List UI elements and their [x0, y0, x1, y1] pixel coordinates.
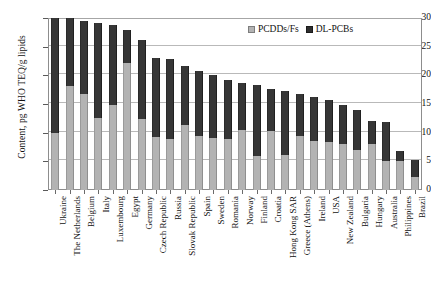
- x-tick-label: Norway: [246, 196, 255, 225]
- bar-segment-dl-pcbs: [253, 85, 261, 156]
- x-tick-label: Finland: [260, 196, 269, 224]
- x-tick-mark: [70, 190, 71, 194]
- bar-segment-dl-pcbs: [396, 151, 404, 161]
- bar-segment-pcdds-fs: [368, 144, 376, 190]
- x-tick-label: Ukraine: [59, 196, 68, 225]
- x-tick-label: USA: [332, 196, 341, 214]
- bars-layer: [48, 18, 422, 190]
- bar-segment-pcdds-fs: [339, 144, 347, 190]
- x-tick-mark: [314, 190, 315, 194]
- bar-segment-dl-pcbs: [138, 40, 146, 119]
- x-tick-label: Germany: [145, 196, 154, 230]
- bar-segment-pcdds-fs: [138, 119, 146, 190]
- y-tick-mark: [43, 190, 48, 191]
- bar-segment-dl-pcbs: [181, 66, 189, 125]
- x-tick-mark: [329, 190, 330, 194]
- bar-segment-pcdds-fs: [195, 136, 203, 190]
- x-tick-mark: [228, 190, 229, 194]
- x-tick-mark: [185, 190, 186, 194]
- x-tick-label: Russia: [174, 196, 183, 220]
- bar-segment-dl-pcbs: [109, 25, 117, 104]
- bar-segment-pcdds-fs: [267, 131, 275, 190]
- bar-segment-pcdds-fs: [152, 137, 160, 190]
- bar-segment-pcdds-fs: [51, 133, 59, 190]
- x-tick-mark: [271, 190, 272, 194]
- bar-segment-pcdds-fs: [123, 63, 131, 190]
- bar-segment-pcdds-fs: [296, 136, 304, 190]
- x-tick-mark: [199, 190, 200, 194]
- x-tick-label: Spain: [203, 196, 212, 217]
- bar-segment-pcdds-fs: [353, 150, 361, 190]
- x-tick-mark: [372, 190, 373, 194]
- bar-segment-dl-pcbs: [80, 21, 88, 94]
- x-tick-mark: [343, 190, 344, 194]
- bar-segment-pcdds-fs: [94, 118, 102, 190]
- x-tick-mark: [300, 190, 301, 194]
- bar-segment-dl-pcbs: [325, 100, 333, 142]
- x-tick-mark: [84, 190, 85, 194]
- x-tick-mark: [400, 190, 401, 194]
- x-tick-label: Ireland: [318, 196, 327, 221]
- bar-segment-pcdds-fs: [310, 141, 318, 190]
- x-tick-label: Sweden: [217, 196, 226, 225]
- bar-segment-dl-pcbs: [281, 91, 289, 155]
- x-tick-label: Romania: [231, 196, 240, 229]
- x-tick-mark: [113, 190, 114, 194]
- x-tick-mark: [55, 190, 56, 194]
- bar-segment-pcdds-fs: [181, 125, 189, 190]
- x-tick-mark: [257, 190, 258, 194]
- bar-segment-pcdds-fs: [238, 130, 246, 190]
- bar-segment-dl-pcbs: [353, 110, 361, 150]
- bar-segment-dl-pcbs: [339, 105, 347, 144]
- x-tick-mark: [127, 190, 128, 194]
- bar-segment-dl-pcbs: [411, 160, 419, 178]
- bar-segment-pcdds-fs: [209, 138, 217, 190]
- x-tick-label: Australia: [390, 196, 399, 229]
- x-tick-mark: [285, 190, 286, 194]
- bar-segment-pcdds-fs: [253, 156, 261, 190]
- chart-legend: PCDDs/Fs DL-PCBs: [248, 24, 353, 34]
- x-tick-label: Bulgaria: [361, 196, 370, 227]
- x-tick-label: Belgium: [87, 196, 96, 227]
- stacked-bar-chart: Content, pg WHO TEQ/g lipids 05101520253…: [0, 0, 431, 306]
- bar-segment-dl-pcbs: [123, 30, 131, 63]
- bar-segment-dl-pcbs: [296, 94, 304, 136]
- x-tick-mark: [242, 190, 243, 194]
- x-tick-mark: [357, 190, 358, 194]
- legend-swatch-icon-pcdds-fs: [248, 26, 255, 33]
- legend-label-dl-pcbs: DL-PCBs: [316, 24, 353, 34]
- x-tick-label: Egypt: [131, 196, 140, 218]
- x-tick-label: Czech Republic: [159, 196, 168, 253]
- x-tick-mark: [142, 190, 143, 194]
- bar-segment-pcdds-fs: [80, 94, 88, 190]
- bar-segment-pcdds-fs: [224, 139, 232, 190]
- x-tick-mark: [415, 190, 416, 194]
- x-tick-label: Italy: [102, 196, 111, 213]
- bar-segment-dl-pcbs: [195, 71, 203, 136]
- x-tick-label: Slovak Republic: [188, 196, 197, 256]
- legend-item-pcdds-fs: PCDDs/Fs: [248, 24, 299, 34]
- legend-item-dl-pcbs: DL-PCBs: [306, 24, 353, 34]
- x-tick-label: Hungary: [375, 196, 384, 228]
- bar-segment-pcdds-fs: [109, 105, 117, 190]
- x-tick-label: Hong Kong SAR: [289, 196, 298, 258]
- bar-segment-pcdds-fs: [411, 177, 419, 190]
- x-tick-label: Philippines: [404, 196, 413, 237]
- bar-segment-dl-pcbs: [166, 59, 174, 139]
- x-tick-mark: [156, 190, 157, 194]
- x-tick-label: Brazil: [418, 196, 427, 218]
- x-tick-label: Luxembourg: [116, 196, 125, 242]
- bar-segment-dl-pcbs: [66, 18, 74, 86]
- y-axis-title: Content, pg WHO TEQ/g lipids: [17, 12, 27, 182]
- x-tick-label: New Zealand: [346, 196, 355, 244]
- x-tick-mark: [98, 190, 99, 194]
- bar-segment-dl-pcbs: [382, 122, 390, 160]
- bar-segment-pcdds-fs: [325, 142, 333, 190]
- bar-segment-dl-pcbs: [310, 97, 318, 141]
- x-tick-label: Greece (Athens): [303, 196, 312, 255]
- x-tick-mark: [386, 190, 387, 194]
- x-tick-label: Croatia: [274, 196, 283, 223]
- bar-segment-pcdds-fs: [382, 161, 390, 190]
- x-tick-mark: [170, 190, 171, 194]
- bar-segment-dl-pcbs: [94, 23, 102, 118]
